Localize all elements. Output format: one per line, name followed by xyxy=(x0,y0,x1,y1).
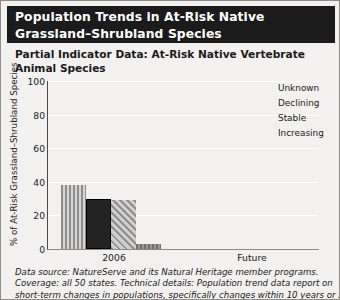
footnote-line-3: short-term changes in populations, speci… xyxy=(15,290,333,300)
legend-label-increasing: Increasing xyxy=(278,128,324,138)
legend-label-unknown: Unknown xyxy=(278,83,319,93)
gridline-60 xyxy=(48,148,318,149)
legend-item-declining: Declining xyxy=(263,96,340,111)
x-tick-future: Future xyxy=(186,252,318,263)
y-tick-100: 100 xyxy=(19,77,45,86)
bar-2006-stable xyxy=(111,200,136,249)
legend-item-unknown: Unknown xyxy=(263,81,340,96)
x-tick-2006: 2006 xyxy=(48,252,180,263)
y-tick-0: 0 xyxy=(19,245,45,254)
legend-item-increasing: Increasing xyxy=(263,126,340,141)
chart-subtitle-line-2: Animal Species xyxy=(15,61,315,75)
legend-swatch-stable-icon xyxy=(263,113,273,123)
legend-swatch-declining-icon xyxy=(263,98,273,108)
legend-swatch-increasing-icon xyxy=(263,128,273,138)
x-axis-line xyxy=(47,249,319,250)
chart-subtitle-line-1: Partial Indicator Data: At-Risk Native V… xyxy=(15,47,315,61)
chart-subtitle: Partial Indicator Data: At-Risk Native V… xyxy=(15,47,315,75)
y-tick-60: 60 xyxy=(19,144,45,153)
legend-item-stable: Stable xyxy=(263,111,340,126)
bar-2006-declining xyxy=(86,199,111,249)
y-tick-20: 20 xyxy=(19,211,45,220)
y-axis-tick-labels: 100 80 60 40 20 0 xyxy=(15,79,45,254)
gridline-40 xyxy=(48,182,318,183)
header-banner: Population Trends in At-Risk Native Gras… xyxy=(7,6,335,43)
bar-2006-unknown xyxy=(61,185,86,249)
bar-2006-increasing xyxy=(136,244,161,249)
legend-swatch-unknown-icon xyxy=(263,83,273,93)
y-tick-80: 80 xyxy=(19,111,45,120)
footnote-line-2: Coverage: all 50 states. Technical detai… xyxy=(15,278,333,289)
chart-legend: Unknown Declining Stable Increasing xyxy=(263,81,340,141)
footnote-line-1: Data source: NatureServe and its Natural… xyxy=(15,267,333,278)
footnote: Data source: NatureServe and its Natural… xyxy=(15,267,333,300)
legend-label-declining: Declining xyxy=(278,98,319,108)
header-title-line-2: Grassland–Shrubland Species xyxy=(15,26,327,43)
y-tick-40: 40 xyxy=(19,178,45,187)
header-title-line-1: Population Trends in At-Risk Native xyxy=(15,9,327,26)
figure-panel: Population Trends in At-Risk Native Gras… xyxy=(0,0,340,300)
legend-label-stable: Stable xyxy=(278,113,306,123)
